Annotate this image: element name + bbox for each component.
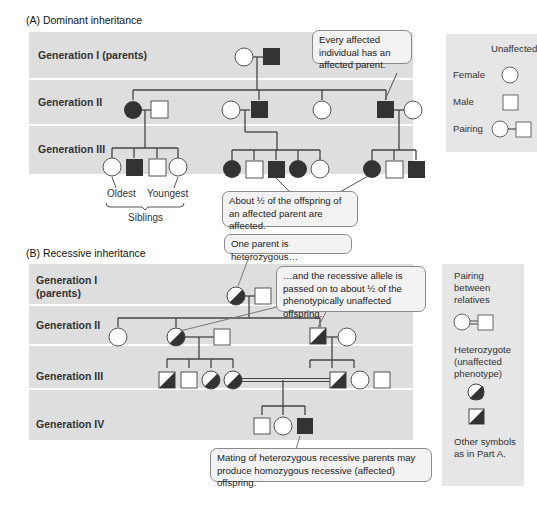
legend-b-symbols	[442, 264, 524, 486]
callout-one-parent-heterozygous: One parent is heterozygous…	[224, 234, 352, 254]
callout-mating-heterozygous: Mating of heterozygous recessive parents…	[210, 448, 432, 482]
legend-b: Pairing between relatives Heterozygote (…	[442, 264, 524, 486]
callout-recessive-allele-passed: …and the recessive allele is passed on t…	[276, 266, 426, 312]
